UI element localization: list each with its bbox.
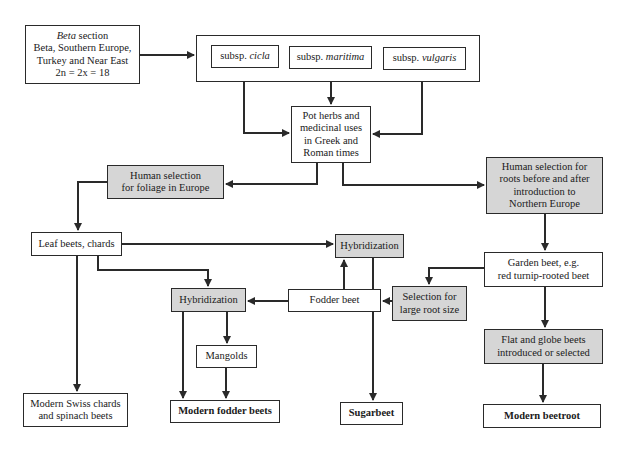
subsp-name: vulgaris: [422, 52, 456, 63]
node-text: Human selection for: [499, 161, 589, 174]
node-text: Pot herbs and: [300, 110, 362, 123]
node-text: and spinach beets: [30, 410, 120, 423]
node-text: Sugarbeet: [349, 407, 395, 420]
node-text: in Greek and: [300, 135, 362, 148]
node-text: Fodder beet: [310, 294, 360, 307]
beta-genus-label: Beta: [57, 30, 76, 41]
node-flat-globe: Flat and globe beets introduced or selec…: [484, 329, 603, 364]
node-text: Garden beet, e.g.: [498, 257, 590, 270]
beta-region-line: Beta, Southern Europe,: [34, 42, 132, 55]
node-text: Selection for: [400, 291, 459, 304]
node-subsp-vulgaris: subsp. vulgaris: [383, 47, 466, 70]
node-text: large root size: [400, 304, 459, 317]
node-modern-swiss-chards: Modern Swiss chards and spinach beets: [23, 393, 128, 427]
subsp-prefix: subsp.: [393, 52, 422, 63]
node-text: Human selection: [122, 170, 210, 183]
node-beta-section: Beta section Beta, Southern Europe, Turk…: [25, 25, 140, 84]
node-text: Modern fodder beets: [178, 405, 272, 418]
node-text: introduced or selected: [497, 347, 590, 360]
node-selection-foliage: Human selection for foliage in Europe: [107, 165, 224, 199]
chromosome-count: 2n = 2x = 18: [34, 67, 132, 80]
node-fodder-beet: Fodder beet: [288, 289, 381, 312]
node-text: red turnip-rooted beet: [498, 270, 590, 283]
node-text: Flat and globe beets: [497, 334, 590, 347]
node-text: Hybridization: [179, 294, 237, 307]
node-text: roots before and after: [499, 173, 589, 186]
subsp-prefix: subsp.: [220, 50, 249, 61]
node-selection-large-root: Selection for large root size: [392, 286, 467, 321]
node-pot-herbs: Pot herbs and medicinal uses in Greek an…: [291, 106, 371, 163]
node-subsp-cicla: subsp. cicla: [211, 45, 279, 68]
node-text: medicinal uses: [300, 122, 362, 135]
node-text: for foliage in Europe: [122, 182, 210, 195]
subsp-prefix: subsp.: [297, 51, 326, 62]
node-text: Roman times: [300, 147, 362, 160]
subsp-name: maritima: [326, 51, 365, 62]
node-hybridization-left: Hybridization: [171, 288, 246, 312]
node-text: Mangolds: [206, 350, 248, 363]
node-modern-beetroot: Modern beetroot: [483, 404, 601, 428]
node-selection-roots: Human selection for roots before and aft…: [486, 157, 603, 214]
node-subsp-maritima: subsp. maritima: [289, 46, 372, 69]
node-mangolds: Mangolds: [196, 345, 257, 368]
node-text: introduction to: [499, 186, 589, 199]
node-sugarbeet: Sugarbeet: [340, 402, 403, 425]
node-hybridization-top: Hybridization: [335, 234, 404, 258]
node-garden-beet: Garden beet, e.g. red turnip-rooted beet: [484, 252, 603, 287]
node-text: Hybridization: [340, 240, 398, 253]
beta-region-line: Turkey and Near East: [34, 55, 132, 68]
node-text: Modern beetroot: [504, 410, 580, 423]
node-leaf-beets: Leaf beets, chards: [31, 232, 122, 256]
node-modern-fodder-beets: Modern fodder beets: [170, 400, 280, 423]
node-text: Modern Swiss chards: [30, 398, 120, 411]
subsp-name: cicla: [249, 50, 269, 61]
node-text: Northern Europe: [499, 198, 589, 211]
node-text: Leaf beets, chards: [38, 238, 114, 251]
